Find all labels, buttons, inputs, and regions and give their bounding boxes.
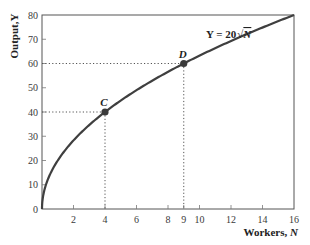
y-axis-title: Output,Y xyxy=(8,13,20,58)
point-c xyxy=(101,108,108,115)
x-tick-label: 16 xyxy=(289,214,299,225)
x-axis-title: Workers, N xyxy=(244,226,299,238)
y-tick-label: 80 xyxy=(28,10,38,21)
axis-ticks: 010203040506070802468910121416 xyxy=(28,10,299,226)
y-tick-label: 40 xyxy=(28,107,38,118)
x-tick-label: 4 xyxy=(103,214,108,225)
point-label-d: D xyxy=(178,48,187,60)
x-tick-label: 14 xyxy=(258,214,268,225)
y-tick-label: 20 xyxy=(28,155,38,166)
equation-label: Y = 20√N xyxy=(206,28,252,40)
y-tick-label: 0 xyxy=(33,204,38,215)
x-tick-label: 9 xyxy=(181,214,186,225)
x-tick-label: 10 xyxy=(195,214,205,225)
y-tick-label: 70 xyxy=(28,34,38,45)
x-tick-label: 12 xyxy=(226,214,236,225)
production-function-chart: 010203040506070802468910121416 CD Y = 20… xyxy=(0,0,310,245)
y-tick-label: 50 xyxy=(28,82,38,93)
point-d xyxy=(180,60,187,67)
dotted-guide-lines xyxy=(42,64,184,210)
x-tick-label: 8 xyxy=(166,214,171,225)
point-label-c: C xyxy=(100,96,108,108)
x-tick-label: 6 xyxy=(134,214,139,225)
x-tick-label: 2 xyxy=(71,214,76,225)
y-tick-label: 10 xyxy=(28,179,38,190)
y-tick-label: 60 xyxy=(28,58,38,69)
y-tick-label: 30 xyxy=(28,131,38,142)
